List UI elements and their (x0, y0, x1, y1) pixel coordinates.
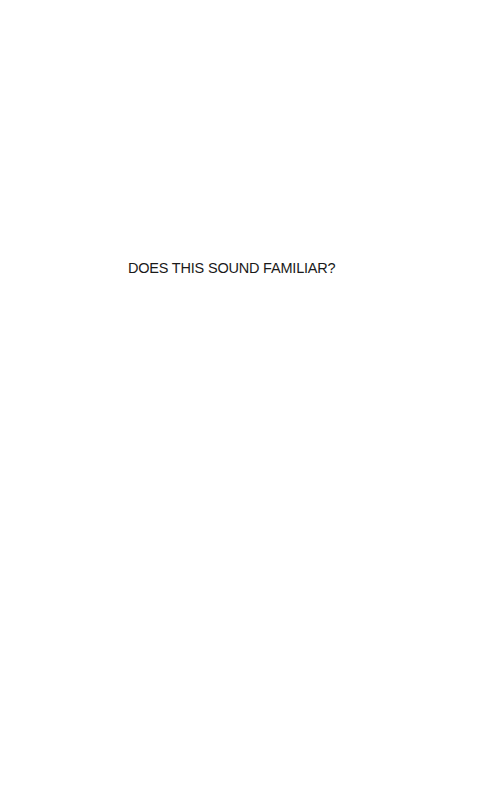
document-page: DOES THIS SOUND FAMILIAR? (0, 0, 479, 808)
section-heading: DOES THIS SOUND FAMILIAR? (128, 259, 328, 277)
